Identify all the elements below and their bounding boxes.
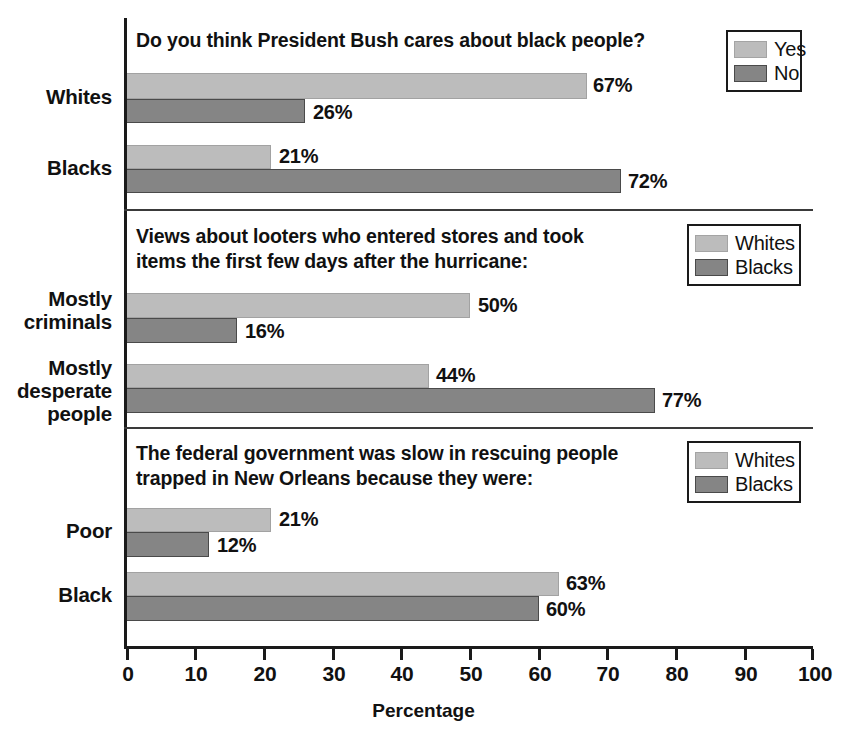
- legend-swatch-blacks-2: [695, 259, 728, 276]
- x-tick-label-100: 100: [798, 662, 832, 686]
- bar-federal-poor-whites: [127, 508, 271, 532]
- x-tick-label-10: 10: [185, 662, 208, 686]
- legend-swatch-blacks-3: [695, 476, 728, 493]
- x-tick-80: [675, 649, 678, 660]
- bar-value-federal-black-blacks: 60%: [546, 598, 585, 621]
- x-tick-60: [538, 649, 541, 660]
- legend-swatch-whites-3: [695, 452, 728, 469]
- x-tick-20: [263, 649, 266, 660]
- legend-swatch-yes: [734, 41, 767, 58]
- bar-value-bush-whites-yes: 67%: [593, 74, 632, 97]
- bar-federal-poor-blacks: [127, 532, 209, 557]
- x-tick-100: [811, 649, 814, 660]
- bar-looters-desperate-whites: [127, 364, 429, 388]
- legend-label-whites-3: Whites: [735, 450, 795, 470]
- panel-looters-legend: Whites Blacks: [687, 224, 801, 286]
- category-label-blacks-1: Blacks: [0, 157, 112, 180]
- panel-bush-prompt: Do you think President Bush cares about …: [136, 28, 696, 53]
- x-tick-label-0: 0: [122, 662, 133, 686]
- x-tick-label-80: 80: [666, 662, 689, 686]
- survey-bar-chart: 0 10 20 30 40 50 60 70 80 90 100 Percent…: [0, 0, 847, 740]
- bar-looters-criminals-whites: [127, 293, 470, 318]
- x-tick-40: [400, 649, 403, 660]
- panel-federal-prompt: The federal government was slow in rescu…: [136, 441, 681, 491]
- legend-label-blacks-3: Blacks: [735, 474, 793, 494]
- bar-value-looters-desperate-blacks: 77%: [662, 389, 701, 412]
- bar-value-looters-criminals-whites: 50%: [478, 294, 517, 317]
- legend-swatch-whites-2: [695, 235, 728, 252]
- x-tick-label-90: 90: [735, 662, 758, 686]
- bar-bush-whites-yes: [127, 73, 587, 99]
- bar-value-federal-poor-blacks: 12%: [217, 534, 256, 557]
- x-tick-90: [744, 649, 747, 660]
- legend-row-blacks-2: Blacks: [695, 255, 791, 279]
- legend-label-no: No: [774, 63, 799, 83]
- category-label-mostly-criminals: Mostly criminals: [0, 288, 112, 334]
- bar-value-federal-poor-whites: 21%: [279, 508, 318, 531]
- legend-label-whites-2: Whites: [735, 233, 795, 253]
- x-tick-0: [126, 649, 129, 660]
- panel-divider-2: [124, 427, 813, 429]
- bar-value-bush-blacks-yes: 21%: [279, 145, 318, 168]
- x-tick-30: [332, 649, 335, 660]
- legend-row-no: No: [734, 61, 792, 85]
- bar-bush-blacks-no: [127, 169, 621, 193]
- x-axis-title: Percentage: [0, 700, 847, 722]
- legend-label-yes: Yes: [774, 39, 806, 59]
- x-tick-70: [606, 649, 609, 660]
- panel-bush-legend: Yes No: [726, 30, 802, 92]
- legend-row-whites-2: Whites: [695, 231, 791, 255]
- category-label-mostly-desperate-people: Mostly desperate people: [0, 357, 112, 426]
- x-tick-label-60: 60: [529, 662, 552, 686]
- category-label-black: Black: [0, 584, 112, 607]
- bar-value-bush-blacks-no: 72%: [628, 170, 667, 193]
- category-label-poor: Poor: [0, 520, 112, 543]
- bar-bush-whites-no: [127, 99, 305, 123]
- bar-looters-criminals-blacks: [127, 318, 237, 343]
- legend-label-blacks-2: Blacks: [735, 257, 793, 277]
- x-tick-label-50: 50: [460, 662, 483, 686]
- legend-row-yes: Yes: [734, 37, 792, 61]
- bar-federal-black-blacks: [127, 596, 539, 621]
- bar-value-bush-whites-no: 26%: [313, 101, 352, 124]
- panel-federal-legend: Whites Blacks: [687, 441, 801, 503]
- x-tick-label-30: 30: [323, 662, 346, 686]
- x-tick-label-70: 70: [597, 662, 620, 686]
- bar-looters-desperate-blacks: [127, 388, 655, 413]
- category-label-whites-1: Whites: [0, 86, 112, 109]
- bar-value-federal-black-whites: 63%: [566, 572, 605, 595]
- legend-row-whites-3: Whites: [695, 448, 791, 472]
- x-tick-label-20: 20: [254, 662, 277, 686]
- x-tick-50: [469, 649, 472, 660]
- legend-swatch-no: [734, 65, 767, 82]
- bar-federal-black-whites: [127, 572, 559, 596]
- panel-looters-prompt: Views about looters who entered stores a…: [136, 224, 676, 274]
- bar-value-looters-criminals-blacks: 16%: [245, 320, 284, 343]
- legend-row-blacks-3: Blacks: [695, 472, 791, 496]
- x-tick-10: [194, 649, 197, 660]
- bar-bush-blacks-yes: [127, 145, 271, 169]
- bar-value-looters-desperate-whites: 44%: [436, 364, 475, 387]
- panel-divider-1: [124, 209, 813, 211]
- x-tick-label-40: 40: [391, 662, 414, 686]
